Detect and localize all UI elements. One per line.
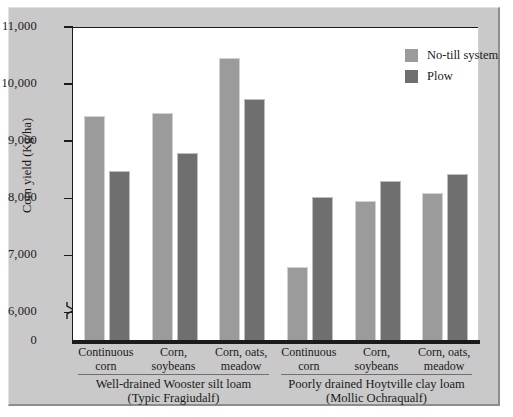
y-axis-tick-label: 8,000: [8, 190, 37, 205]
x-axis-category-line: Corn, oats,: [401, 346, 487, 360]
bar-no-till: [422, 193, 443, 341]
group-separator-rule: [281, 374, 472, 375]
bar-plow: [177, 153, 198, 341]
x-axis-baseline: [72, 340, 480, 344]
x-axis-category-line: meadow: [401, 360, 487, 374]
legend-label: Plow: [427, 69, 453, 84]
legend-swatch-icon: [405, 70, 418, 83]
y-axis-tick-label: 9,000: [8, 133, 37, 148]
bar-plow: [380, 181, 401, 341]
y-axis-tick-label: 6,000: [8, 304, 37, 319]
bar-no-till: [287, 267, 308, 341]
y-axis-tick-label: 10,000: [1, 76, 37, 91]
legend: No-till systemPlow: [405, 48, 498, 90]
x-axis-category-label: Corn, oats,meadow: [401, 346, 487, 373]
y-axis-tick-label: 0: [31, 333, 37, 348]
bar-no-till: [219, 58, 240, 341]
y-axis-tick-label: 7,000: [8, 247, 37, 262]
y-axis-title: Corn yield (Kg/ha): [20, 96, 35, 236]
group-separator-rule: [78, 374, 269, 375]
bar-plow: [312, 197, 333, 341]
x-axis-group-line: (Typic Fragiudalf): [72, 391, 275, 405]
x-axis-group-line: (Mollic Ochraqualf): [275, 391, 478, 405]
y-axis-tick-label: 11,000: [2, 19, 37, 34]
x-axis-group-line: Poorly drained Hoytville clay loam: [275, 377, 478, 391]
legend-label: No-till system: [427, 48, 498, 63]
bar-no-till: [152, 113, 173, 341]
bar-no-till: [84, 116, 105, 341]
bar-no-till: [355, 201, 376, 341]
bar-plow: [109, 171, 130, 341]
x-axis-group-line: Well-drained Wooster silt loam: [72, 377, 275, 391]
x-axis-group-label: Poorly drained Hoytville clay loam(Molli…: [275, 377, 478, 405]
legend-swatch-icon: [405, 49, 418, 62]
legend-item: Plow: [405, 69, 498, 84]
figure-panel: Corn yield (Kg/ha) 11,00010,0009,0008,00…: [8, 7, 500, 406]
bar-plow: [447, 174, 468, 341]
legend-item: No-till system: [405, 48, 498, 63]
x-axis-group-label: Well-drained Wooster silt loam(Typic Fra…: [72, 377, 275, 405]
bar-plow: [244, 99, 265, 341]
